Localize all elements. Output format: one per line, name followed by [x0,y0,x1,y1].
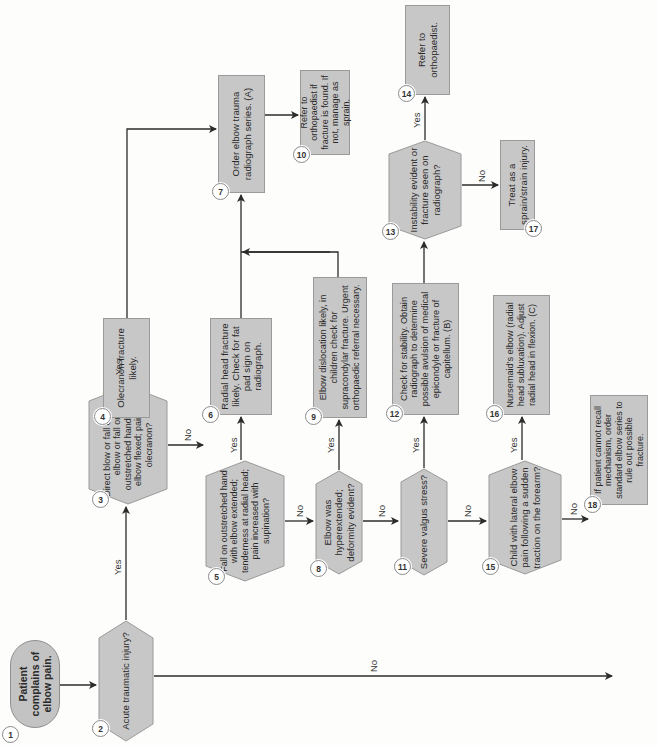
node-7-process: Order elbow trauma radiograph series. (A… [218,75,265,193]
node-1-start: Patient complains of elbow pain. [10,640,60,728]
edge-label-3-5-no: No [182,429,193,441]
node-14-badge: 14 [398,85,415,102]
node-7-text: Order elbow trauma radiograph series. (A… [230,80,252,188]
node-17-process: Treat as a sprain/strain injury. [500,140,535,230]
node-9-badge: 9 [305,408,322,425]
node-10-text: Refer to orthopaedist if fracture is fou… [299,75,352,150]
edge-label-13-17-no: No [476,170,487,182]
node-13-badge: 13 [382,223,399,240]
node-12-text: Check for stability. Obtain radiograph t… [399,288,453,410]
edge-label-15-18-no: No [568,503,579,515]
edge-label-8-9-yes: Yes [325,438,336,454]
node-13-decision: Instability evident or fracture seen on … [388,140,462,240]
node-12-process: Check for stability. Obtain radiograph t… [392,283,459,415]
node-10-badge: 10 [293,146,310,163]
node-16-badge: 16 [486,405,503,422]
edge-label-13-14-yes: Yes [411,113,422,129]
node-5-text: Fall on outstretched hand with elbow ext… [219,464,272,578]
node-16-text: Nursemaid's elbow (radial head subluxati… [505,300,537,410]
node-8-text: Elbow was hyperextended; deformity evide… [322,474,356,571]
node-10-process: Refer to orthopaedist if fracture is fou… [300,70,350,155]
flowchart-canvas: Patient complains of elbow pain. 1 Acute… [0,0,658,745]
edge-label-5-8-no: No [294,505,305,517]
node-4-badge: 4 [94,408,111,425]
node-12-badge: 12 [386,405,403,422]
node-11-text: Severe valgus stress? [418,475,429,569]
node-14-text: Refer to orthopaedist. [416,10,438,90]
node-2-text: Acute traumatic injury? [120,632,131,730]
node-16-process: Nursemaid's elbow (radial head subluxati… [493,295,550,415]
edge-label-2-3-yes: Yes [112,560,123,576]
node-6-badge: 6 [202,406,219,423]
node-9-process: Elbow dislocation likely, in children ch… [313,277,367,418]
node-14-process: Refer to orthopaedist. [405,5,450,95]
edge-label-11-15-no: No [462,505,473,517]
node-5-decision: Fall on outstretched hand with elbow ext… [205,460,285,582]
edge-label-8-11-no: No [376,505,387,517]
edge-label-3-4-yes: Yes [113,360,124,376]
node-11-badge: 11 [394,558,411,575]
node-17-badge: 17 [525,220,542,237]
node-7-badge: 7 [212,183,229,200]
node-15-badge: 15 [482,558,499,575]
node-6-text: Radial head fracture likely. Check for f… [219,323,264,410]
node-8-badge: 8 [310,560,327,577]
node-18-process: If patient cannot recall mechanism, orde… [590,395,648,505]
edge-label-11-12-yes: Yes [410,438,421,454]
node-15-text: Child with lateral elbow pain following … [508,464,542,571]
node-5-badge: 5 [208,568,225,585]
node-15-decision: Child with lateral elbow pain following … [488,460,562,575]
node-8-decision: Elbow was hyperextended; deformity evide… [315,470,363,575]
node-1-text: Patient complains of elbow pain. [17,645,53,723]
node-6-process: Radial head fracture likely. Check for f… [210,318,272,415]
node-17-text: Treat as a sprain/strain injury. [506,145,528,225]
edge-label-5-6-yes: Yes [228,438,239,454]
edge-label-2-offpage-no: No [368,660,379,672]
node-3-badge: 3 [92,491,109,508]
node-4-process: Olecranon fracture likely. [103,318,150,418]
node-1-badge: 1 [2,726,19,743]
edge-label-15-16-yes: Yes [508,438,519,454]
node-18-text: If patient cannot recall mechanism, orde… [593,400,646,500]
node-13-text: Instability evident or fracture seen on … [408,144,442,236]
node-2-badge: 2 [92,720,109,737]
node-18-badge: 18 [584,496,601,513]
node-9-text: Elbow dislocation likely, in children ch… [318,282,361,413]
